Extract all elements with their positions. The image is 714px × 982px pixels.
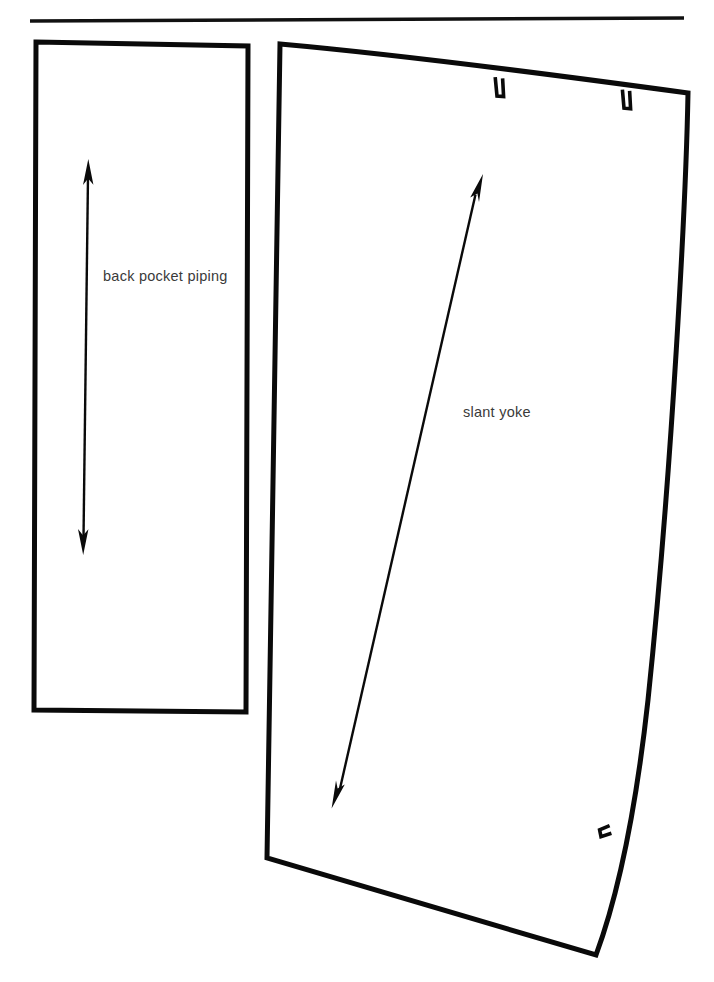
label-back-pocket-piping: back pocket piping <box>103 268 228 284</box>
back-pocket-piping-outline <box>34 42 248 712</box>
notch-top-2-icon <box>622 90 630 109</box>
notch-right-1-icon <box>600 826 612 837</box>
slant-yoke-outline <box>267 44 688 955</box>
pattern-diagram-canvas: back pocket piping slant yoke <box>0 0 714 982</box>
pattern-piece-back-pocket-piping <box>34 42 248 712</box>
top-horizontal-rule <box>30 18 684 21</box>
label-slant-yoke: slant yoke <box>463 404 531 420</box>
pattern-piece-slant-yoke <box>267 44 688 955</box>
notch-top-1-icon <box>495 77 503 96</box>
pattern-diagram-svg <box>0 0 714 982</box>
